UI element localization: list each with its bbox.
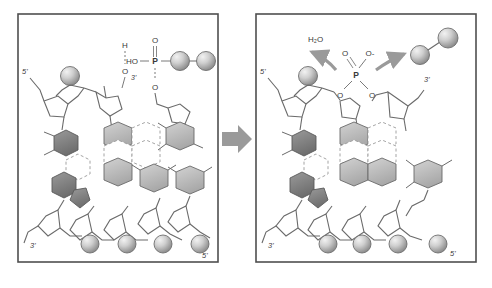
- backbone-sphere-4-after: [429, 235, 447, 253]
- dna-elongation-figure: 5' H O 3' O HO P O: [0, 0, 492, 288]
- base-light-2-after: [340, 158, 368, 186]
- base-light-4: [140, 164, 168, 192]
- label-5prime-top-before: 5': [22, 67, 28, 76]
- base-dark-1-after: [292, 130, 316, 156]
- pyrophosphate-sphere-1: [411, 46, 430, 65]
- water-label: H₂O: [308, 35, 323, 44]
- beta-phosphate-sphere: [171, 52, 190, 71]
- base-light-2: [104, 158, 132, 186]
- panel-after: H₂O O O- P O O: [256, 14, 476, 262]
- diagram-canvas: 5' H O 3' O HO P O: [0, 0, 492, 288]
- panel-before: 5' H O 3' O HO P O: [18, 14, 218, 262]
- base-dark-1: [54, 130, 78, 156]
- base-light-5: [176, 166, 204, 194]
- backbone-sphere-2: [118, 235, 136, 253]
- label-3prime-bottom-after: 3': [268, 241, 274, 250]
- oxygen-double-bond-label: O: [152, 36, 158, 45]
- label-3prime-oh: 3': [131, 74, 137, 81]
- phosphorus-label: P: [152, 56, 158, 66]
- oxygen-anion-label: O-: [366, 49, 375, 58]
- backbone-sphere-3: [154, 235, 172, 253]
- label-3prime-after: 3': [424, 75, 430, 84]
- label-3prime-bottom-before: 3': [30, 241, 36, 250]
- label-5prime-top-after: 5': [260, 67, 266, 76]
- hydrogen-label: H: [122, 41, 128, 50]
- oxygen-label: O: [122, 67, 128, 76]
- backbone-sphere-2-after: [353, 235, 371, 253]
- pyrophosphate-sphere-2: [438, 28, 458, 48]
- label-5prime-bottom-before: 5': [202, 251, 208, 260]
- hydroxyl-label: HO: [126, 57, 138, 66]
- backbone-sphere-1-after: [319, 235, 337, 253]
- backbone-sphere-3-after: [389, 235, 407, 253]
- oxygen-double-bond-label-after: O: [342, 49, 348, 58]
- base-light-4-after: [414, 160, 442, 188]
- label-5prime-bottom-after: 5': [450, 249, 456, 258]
- phosphate-sphere: [61, 67, 80, 86]
- base-light-3-after: [368, 158, 396, 186]
- backbone-sphere-1: [81, 235, 99, 253]
- gamma-phosphate-sphere: [197, 52, 216, 71]
- oxygen-ester-label: O: [152, 83, 158, 92]
- phosphorus-label-after: P: [353, 70, 359, 80]
- oxygen-ester-left-label: O: [337, 91, 343, 100]
- base-light-3: [166, 122, 194, 150]
- phosphate-sphere-after: [299, 67, 318, 86]
